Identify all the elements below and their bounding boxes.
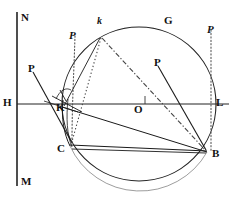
label-B: B [212,148,219,159]
label-C: C [57,143,65,154]
label-N: N [21,12,29,23]
label-P-mid-bold: P [154,57,161,68]
label-K: K [56,102,65,113]
label-H: H [3,97,12,108]
figure-canvas [0,0,233,198]
label-O: O [134,104,143,115]
ray-P-left-to-C [33,72,72,143]
label-P-left-italic: P [69,30,76,41]
label-k-small: k [97,16,102,26]
label-P-left-bold: P [28,63,35,74]
label-L: L [216,97,223,108]
label-P-right-italic: P [207,24,214,35]
geometry-figure: N M H L O G C B K k P P P P [0,0,233,198]
label-M: M [21,176,31,187]
ray-k-to-B [102,38,206,151]
ray-k-to-C [71,38,101,145]
ray-P-mid-to-B [158,66,206,150]
label-G: G [164,15,173,26]
